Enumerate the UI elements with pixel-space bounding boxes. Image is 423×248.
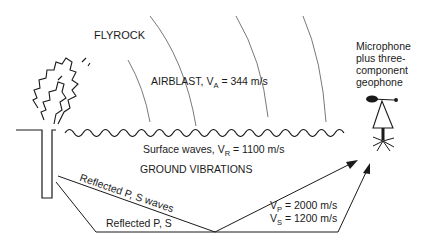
arrow-head-1 [346,160,358,169]
surface-wave-line [65,130,344,137]
diagram-canvas [0,0,423,248]
arc-3 [236,16,268,117]
airblast-arcs [128,16,326,126]
blast-flame-icon [33,58,90,124]
sensor-label-line2: plus three- [356,53,406,64]
vs-label: VS = 1200 m/s [270,213,337,224]
reflected-ps-label: Reflected P, S [106,218,172,229]
arrow-head-2 [363,163,370,174]
ground-vibrations-label: GROUND VIBRATIONS [140,164,252,175]
borehole [16,130,56,198]
sensor-tripod-icon [366,96,398,152]
airblast-label: AIRBLAST, VA = 344 m/s [151,76,268,87]
arrowheads [346,160,370,174]
sensor-label-line1: Microphone [356,41,411,52]
sensor-label-line3: component [356,65,408,76]
vp-label: VP = 2000 m/s [270,200,337,211]
surface-waves-label: Surface waves, VR = 1100 m/s [143,144,285,155]
flyrock-label: FLYROCK [94,30,145,41]
arc-4 [303,16,326,122]
arc-1 [128,60,150,122]
sensor-label-line4: geophone [356,77,403,88]
arc-2 [150,16,196,126]
